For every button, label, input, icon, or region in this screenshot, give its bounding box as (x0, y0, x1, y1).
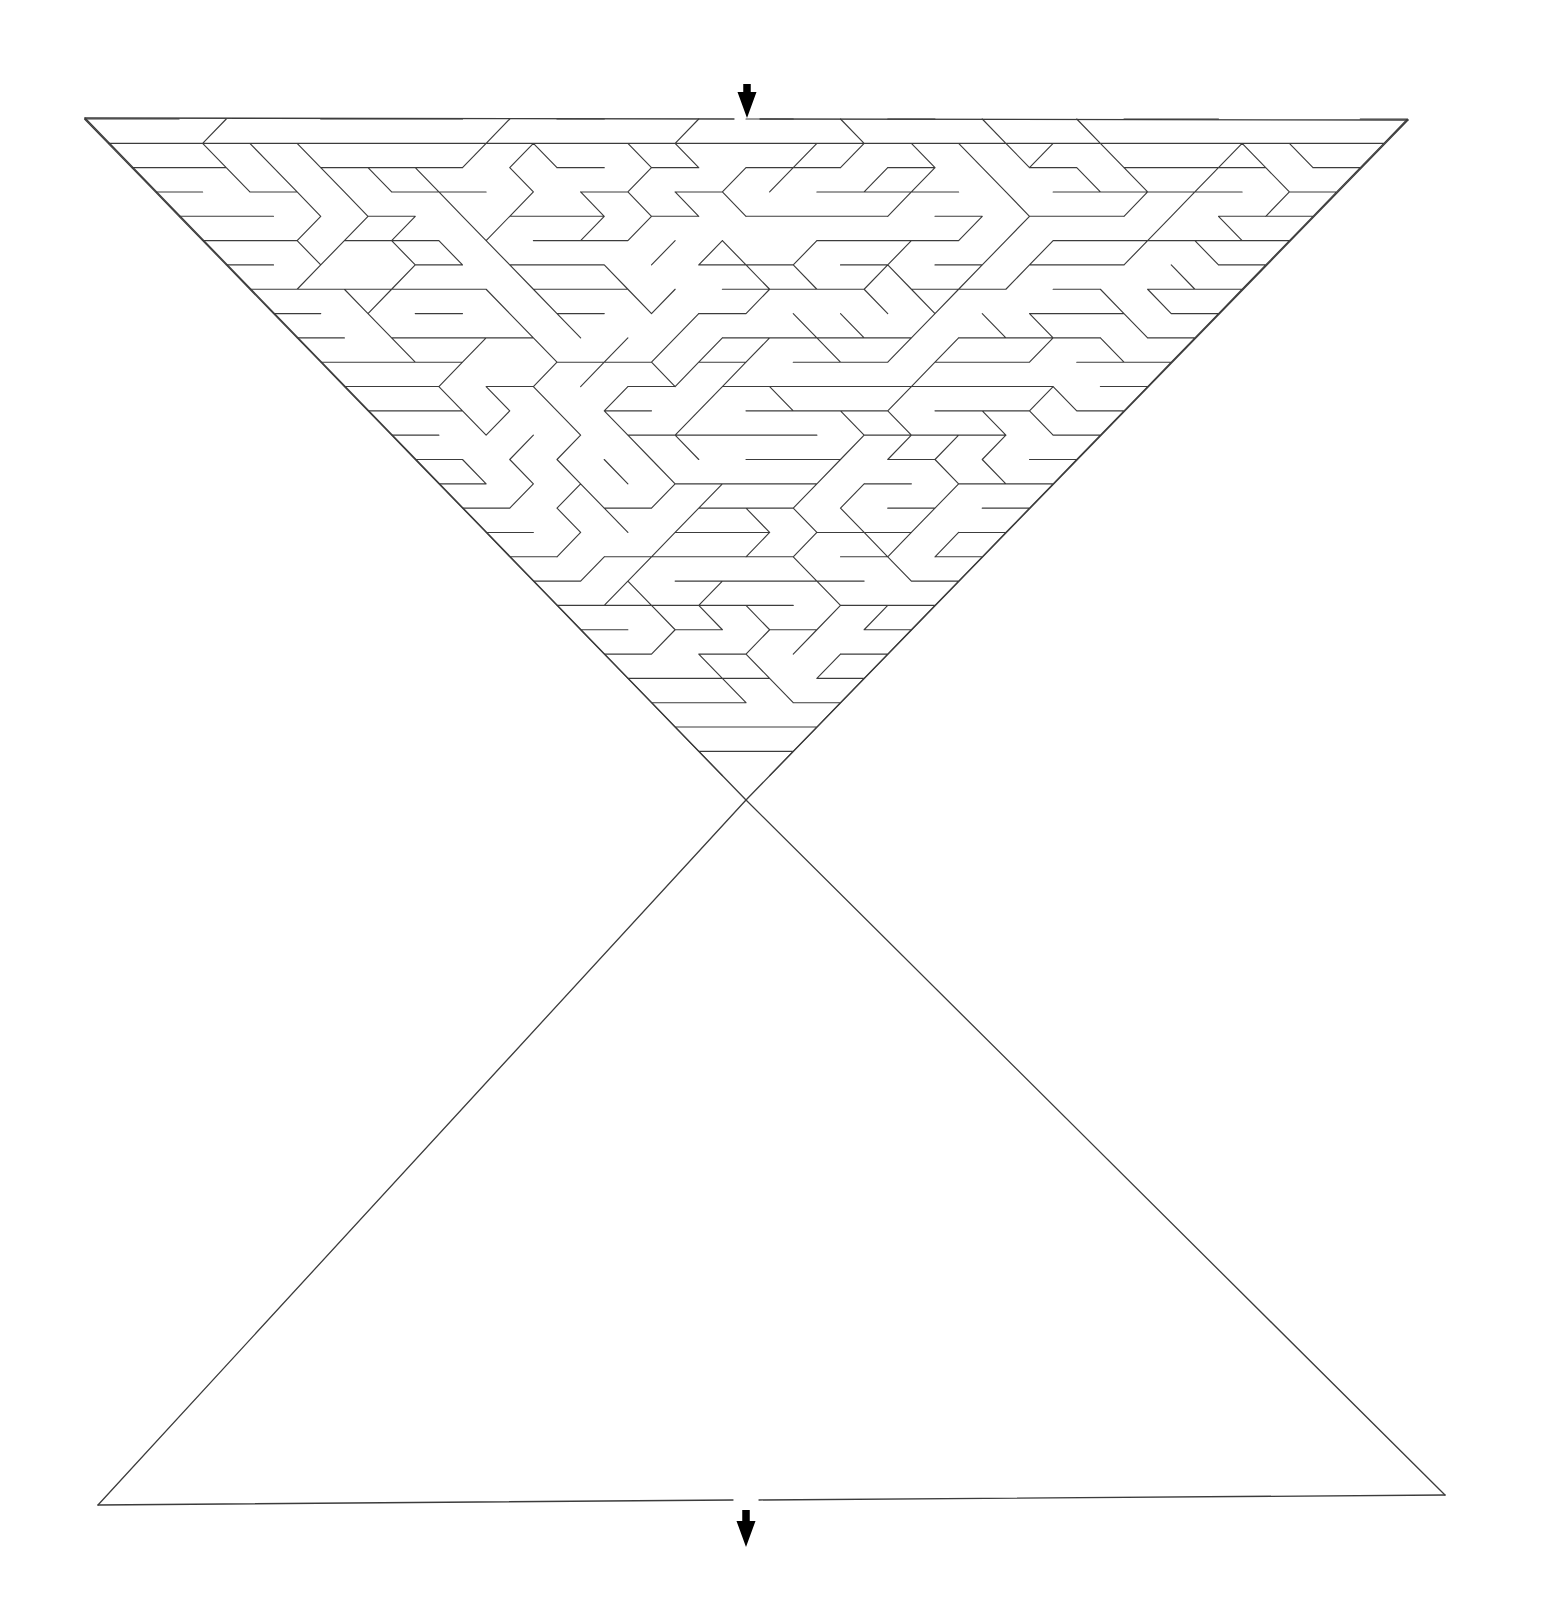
maze-page (0, 0, 1543, 1624)
maze-canvas (0, 0, 1543, 1624)
page-background (0, 0, 1543, 1624)
